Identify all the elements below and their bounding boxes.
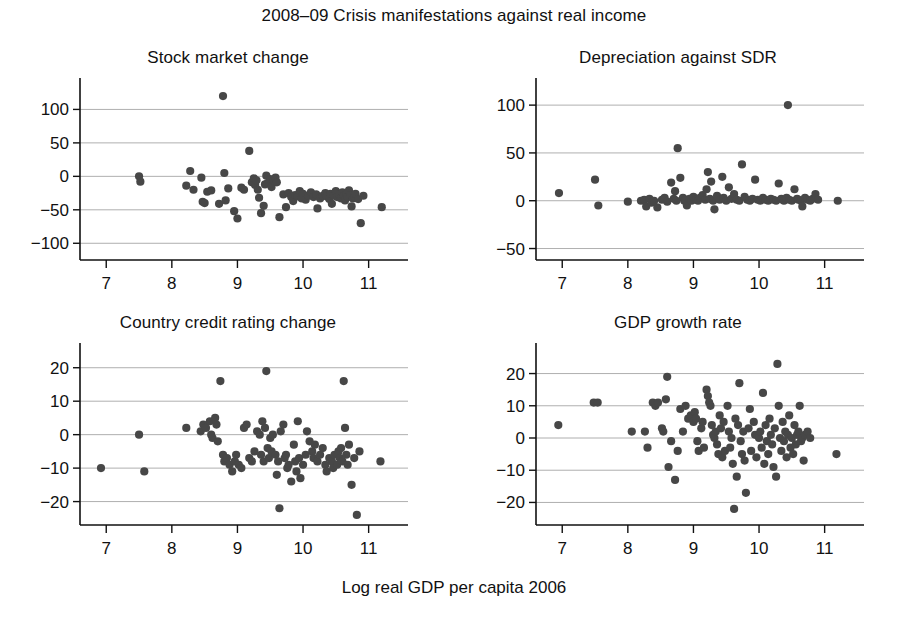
- data-point: [294, 417, 302, 425]
- data-point: [342, 451, 350, 459]
- data-point: [659, 427, 667, 435]
- y-tick-label: 0: [516, 192, 525, 211]
- data-point: [279, 421, 287, 429]
- data-point: [779, 418, 787, 426]
- data-point: [344, 461, 352, 469]
- data-point: [282, 203, 290, 211]
- data-point: [738, 160, 746, 168]
- y-tick-label: 50: [50, 134, 69, 153]
- data-point: [594, 398, 602, 406]
- y-tick-label: −20: [40, 493, 69, 512]
- data-point: [667, 178, 675, 186]
- data-point: [790, 185, 798, 193]
- data-point: [189, 186, 197, 194]
- data-point: [785, 411, 793, 419]
- data-point: [729, 460, 737, 468]
- data-point: [713, 440, 721, 448]
- x-tick-label: 8: [167, 274, 176, 293]
- data-point: [699, 418, 707, 426]
- data-point: [796, 402, 804, 410]
- x-tick-label: 11: [360, 539, 378, 558]
- data-point: [359, 192, 367, 200]
- y-tick-label: 20: [50, 359, 69, 378]
- data-point: [269, 431, 277, 439]
- data-point: [641, 427, 649, 435]
- data-point: [207, 186, 215, 194]
- x-tick-label: 9: [689, 539, 698, 558]
- data-point: [768, 440, 776, 448]
- data-point: [319, 444, 327, 452]
- data-point: [273, 178, 281, 186]
- data-point: [834, 197, 842, 205]
- data-point: [750, 418, 758, 426]
- data-point: [376, 457, 384, 465]
- data-point: [726, 444, 734, 452]
- data-point: [674, 144, 682, 152]
- data-point: [725, 183, 733, 191]
- data-point: [555, 189, 563, 197]
- data-point: [275, 504, 283, 512]
- data-point: [693, 437, 701, 445]
- data-point: [814, 196, 822, 204]
- x-tick-label: 8: [623, 274, 632, 293]
- data-point: [662, 395, 670, 403]
- y-tick-label: 10: [506, 397, 525, 416]
- data-point: [240, 186, 248, 194]
- x-tick-label: 9: [233, 539, 242, 558]
- data-point: [664, 463, 672, 471]
- data-point: [232, 451, 240, 459]
- data-point: [554, 421, 562, 429]
- x-tick-label: 11: [816, 539, 834, 558]
- data-point: [710, 205, 718, 213]
- data-point: [212, 421, 220, 429]
- x-tick-label: 8: [167, 539, 176, 558]
- data-point: [772, 473, 780, 481]
- data-point: [742, 489, 750, 497]
- data-point: [182, 182, 190, 190]
- data-point: [777, 447, 785, 455]
- y-tick-label: −50: [40, 201, 69, 220]
- data-point: [260, 202, 268, 210]
- x-tick-label: 8: [623, 539, 632, 558]
- data-point: [299, 461, 307, 469]
- data-point: [290, 441, 298, 449]
- data-point: [357, 219, 365, 227]
- data-point: [730, 505, 738, 513]
- data-point: [256, 431, 264, 439]
- data-point: [624, 198, 632, 206]
- data-point: [262, 367, 270, 375]
- data-point: [746, 405, 754, 413]
- data-point: [214, 437, 222, 445]
- data-point: [681, 402, 689, 410]
- y-tick-label: −20: [496, 493, 525, 512]
- y-tick-label: 0: [60, 167, 69, 186]
- data-point: [759, 389, 767, 397]
- x-tick-label: 7: [558, 539, 567, 558]
- x-tick-label: 7: [102, 539, 111, 558]
- data-point: [784, 101, 792, 109]
- data-point: [798, 202, 806, 210]
- data-point: [303, 427, 311, 435]
- data-point: [752, 453, 760, 461]
- data-point: [741, 456, 749, 464]
- data-point: [654, 398, 662, 406]
- data-point: [751, 176, 759, 184]
- data-point: [727, 434, 735, 442]
- data-point: [806, 434, 814, 442]
- scatter-plot-country-credit-rating-change: −20−10010207891011: [8, 313, 448, 575]
- scatter-plot-gdp-growth-rate: −20−10010207891011: [452, 313, 904, 575]
- data-point: [764, 450, 772, 458]
- data-point: [345, 441, 353, 449]
- data-point: [135, 431, 143, 439]
- data-point: [663, 373, 671, 381]
- y-tick-label: 50: [506, 144, 525, 163]
- data-point: [254, 186, 262, 194]
- x-tick-label: 11: [360, 274, 378, 293]
- data-point: [257, 209, 265, 217]
- data-point: [735, 379, 743, 387]
- data-point: [220, 169, 228, 177]
- data-point: [591, 176, 599, 184]
- data-point: [136, 178, 144, 186]
- panel-depreciation-against-sdr: Depreciation against SDR −50050100789101…: [452, 48, 904, 310]
- data-point: [243, 421, 251, 429]
